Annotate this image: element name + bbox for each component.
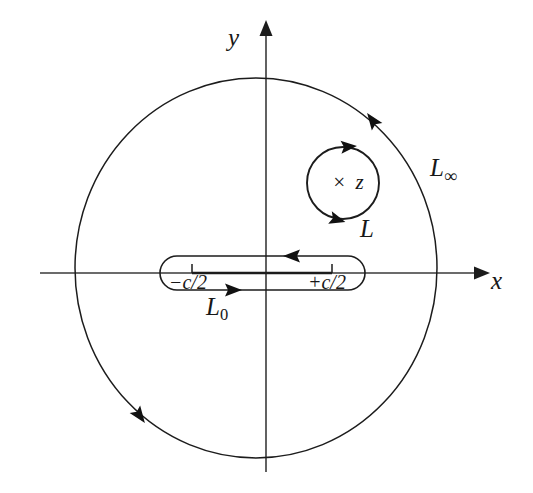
x-axis-label: x <box>491 267 502 295</box>
outer-contour-label-subscript: ∞ <box>444 166 457 186</box>
outer-contour-circle <box>75 78 437 458</box>
outer-contour-label: L∞ <box>430 154 457 187</box>
branch-cut-contour-label: L0 <box>206 293 228 325</box>
pole-marker-label: × z <box>332 170 366 195</box>
x-axis-arrowhead <box>474 267 490 280</box>
branch-cut-label-base: L <box>206 293 220 320</box>
branch-point-label-positive: +c/2 <box>308 271 346 294</box>
outer-contour-arrow-lower-left <box>130 405 151 426</box>
contour-diagram-canvas <box>0 0 533 493</box>
branch-cut-label-subscript: 0 <box>220 305 228 324</box>
y-axis-arrowhead <box>260 20 273 36</box>
y-axis-label: y <box>228 24 239 52</box>
pole-contour-label: L <box>360 215 374 243</box>
axis-group <box>40 20 490 472</box>
outer-contour-label-base: L <box>430 154 444 181</box>
contour-diagram-figure: y x L∞ L L0 × z −c/2 +c/2 <box>0 0 533 493</box>
outer-contour-arrow-upper-right <box>362 109 383 130</box>
branch-point-label-negative: −c/2 <box>169 271 207 294</box>
outer-contour-group <box>75 78 437 458</box>
